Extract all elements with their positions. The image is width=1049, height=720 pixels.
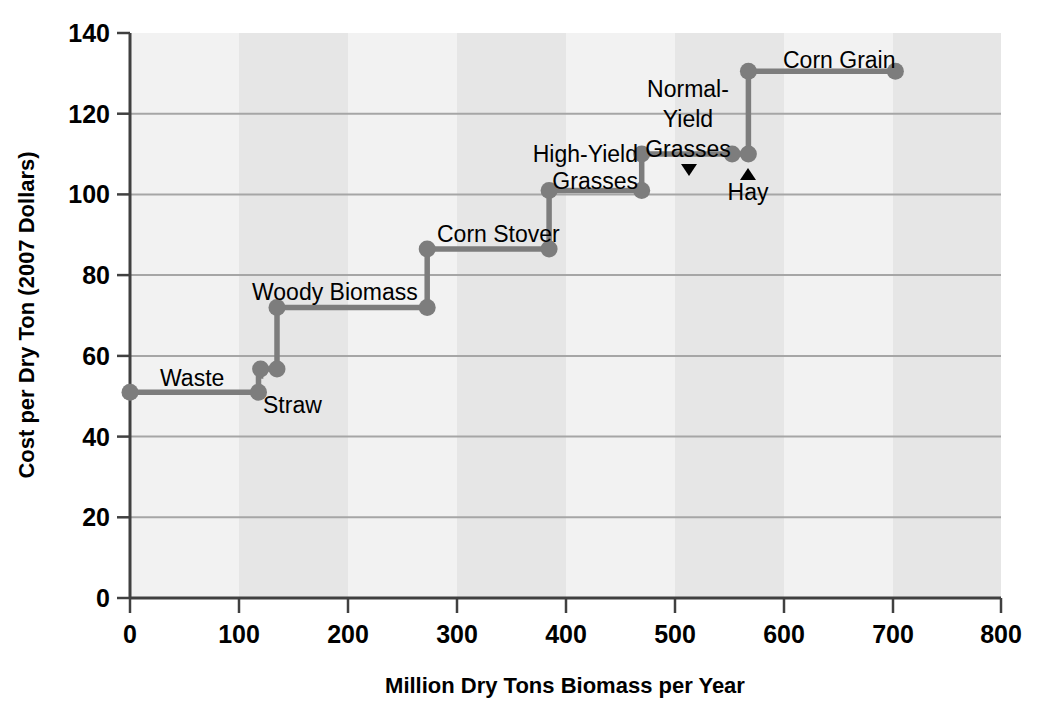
marker-corn-stover-start <box>419 240 436 257</box>
ytick-label-120: 120 <box>68 100 110 128</box>
label-high-yield-line1: High-Yield <box>533 141 638 167</box>
y-axis-tick-labels: 140 120 100 80 60 40 20 0 <box>68 19 110 612</box>
xtick-label-300: 300 <box>436 620 478 648</box>
ytick-label-0: 0 <box>96 584 110 612</box>
label-straw: Straw <box>263 392 322 418</box>
marker-straw-end <box>269 361 286 378</box>
label-corn-grain: Corn Grain <box>783 47 895 73</box>
xtick-label-800: 800 <box>980 620 1022 648</box>
label-waste: Waste <box>160 365 224 391</box>
label-high-yield-line2: Grasses <box>552 168 638 194</box>
label-normal-yield-line3: Grasses <box>645 136 731 162</box>
x-axis-ticks <box>130 598 1001 613</box>
ytick-label-80: 80 <box>82 261 110 289</box>
ytick-label-20: 20 <box>82 503 110 531</box>
band-600-700 <box>784 33 893 598</box>
ytick-label-40: 40 <box>82 423 110 451</box>
xtick-label-700: 700 <box>872 620 914 648</box>
xtick-label-600: 600 <box>763 620 805 648</box>
plot-background-bands <box>130 33 1001 598</box>
ytick-label-60: 60 <box>82 342 110 370</box>
xtick-label-0: 0 <box>123 620 137 648</box>
marker-hay-end <box>740 146 757 163</box>
xtick-label-100: 100 <box>218 620 260 648</box>
label-normal-yield-line2: Yield <box>663 106 713 132</box>
y-axis-ticks <box>117 33 130 598</box>
label-normal-yield-line1: Normal- <box>647 76 729 102</box>
y-axis-title: Cost per Dry Ton (2007 Dollars) <box>14 151 39 478</box>
x-axis-tick-labels: 0 100 200 300 400 500 600 700 800 <box>123 620 1022 648</box>
band-0-100 <box>130 33 239 598</box>
label-corn-stover: Corn Stover <box>437 221 560 247</box>
biomass-supply-curve-chart: 140 120 100 80 60 40 20 0 0 100 200 300 <box>0 0 1049 720</box>
marker-corn-grain-start <box>740 63 757 80</box>
ytick-label-140: 140 <box>68 19 110 47</box>
x-axis-title: Million Dry Tons Biomass per Year <box>385 673 745 698</box>
band-200-300 <box>348 33 457 598</box>
marker-straw-start <box>252 361 269 378</box>
ytick-label-100: 100 <box>68 180 110 208</box>
band-100-200 <box>239 33 348 598</box>
marker-woody-end <box>419 299 436 316</box>
xtick-label-500: 500 <box>654 620 696 648</box>
label-hay: Hay <box>728 179 769 205</box>
marker-waste-start <box>122 384 139 401</box>
band-400-500 <box>566 33 675 598</box>
band-700-800 <box>893 33 1001 598</box>
chart-canvas: 140 120 100 80 60 40 20 0 0 100 200 300 <box>0 0 1049 720</box>
xtick-label-200: 200 <box>327 620 369 648</box>
label-woody-biomass: Woody Biomass <box>252 279 418 305</box>
xtick-label-400: 400 <box>545 620 587 648</box>
band-300-400 <box>457 33 566 598</box>
